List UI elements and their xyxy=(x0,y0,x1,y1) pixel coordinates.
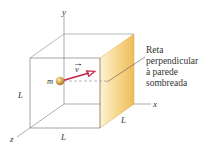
annotation-line-1: Reta xyxy=(146,45,220,56)
annotation-line-3: à parede xyxy=(146,67,220,78)
edge-label-left: L xyxy=(17,90,23,100)
annotation-line-4: sombreada xyxy=(146,78,220,89)
velocity-arrow xyxy=(63,71,95,81)
edge-label-bottom: L xyxy=(60,132,66,142)
annotation-text: Reta perpendicular à parede sombreada xyxy=(146,45,220,89)
z-axis xyxy=(17,104,64,137)
particle-ball xyxy=(56,77,65,86)
annotation-line-2: perpendicular xyxy=(146,56,220,67)
cube-front-edges xyxy=(30,58,100,128)
velocity-label: v xyxy=(75,64,79,74)
z-axis-label: z xyxy=(9,134,14,144)
edge-label-depth: L xyxy=(120,115,126,125)
y-axis-label: y xyxy=(61,7,66,17)
x-axis-label: x xyxy=(152,99,157,109)
mass-label: m xyxy=(47,76,53,86)
